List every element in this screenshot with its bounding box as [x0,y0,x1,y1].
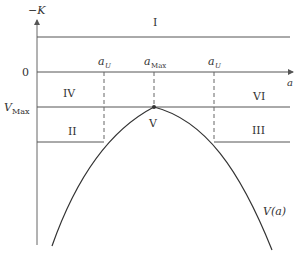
region-V: V [148,117,158,130]
diagram-svg: −K a 0 V Max a U a Max a U I IV VI II V … [0,0,300,258]
aMax-sub: Max [151,62,166,70]
region-VI: VI [252,90,265,103]
aU-left-label: a [98,55,105,68]
potential-curve [52,107,272,250]
vmax-label-sub: Max [12,107,30,116]
peak-point [152,105,156,109]
region-II: II [68,125,77,138]
x-axis-label: a [287,77,293,88]
region-III: III [252,124,265,137]
curve-label: V(a) [263,205,286,218]
region-IV: IV [63,87,76,100]
aMax-label: a [144,55,151,68]
aU-right-sub: U [215,62,222,70]
aU-left-sub: U [105,62,112,70]
potential-diagram: −K a 0 V Max a U a Max a U I IV VI II V … [0,0,300,258]
zero-label: 0 [22,66,29,79]
aU-right-label: a [208,55,215,68]
y-axis-label: −K [28,4,46,17]
region-I: I [153,16,157,29]
